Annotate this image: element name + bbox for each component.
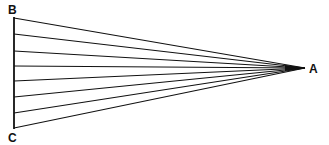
label-b: B bbox=[8, 3, 17, 17]
ray-line bbox=[14, 68, 305, 128]
rays-group bbox=[14, 18, 305, 128]
ray-line bbox=[14, 18, 305, 68]
label-a: A bbox=[309, 62, 318, 76]
ray-line bbox=[14, 66, 305, 68]
ray-line bbox=[14, 51, 305, 68]
ray-line bbox=[14, 68, 305, 97]
ray-line bbox=[14, 34, 305, 68]
label-c: C bbox=[8, 131, 17, 145]
diagram-canvas: B C A bbox=[0, 0, 329, 145]
